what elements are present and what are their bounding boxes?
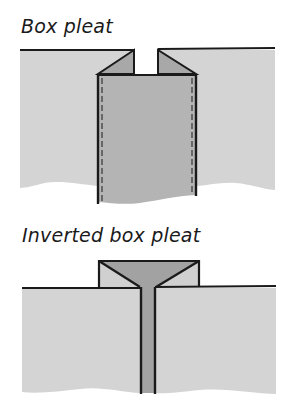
box-pleat-diagram <box>20 48 275 204</box>
inverted-box-pleat-diagram <box>22 261 276 394</box>
inverted-pleat-right-fabric <box>155 288 276 394</box>
pleat-diagrams <box>0 0 291 418</box>
box-pleat-top-right-line <box>158 48 275 49</box>
inverted-pleat-top-right-line <box>155 286 276 287</box>
inverted-pleat-left-fabric <box>22 288 141 393</box>
box-pleat-face <box>98 75 196 204</box>
